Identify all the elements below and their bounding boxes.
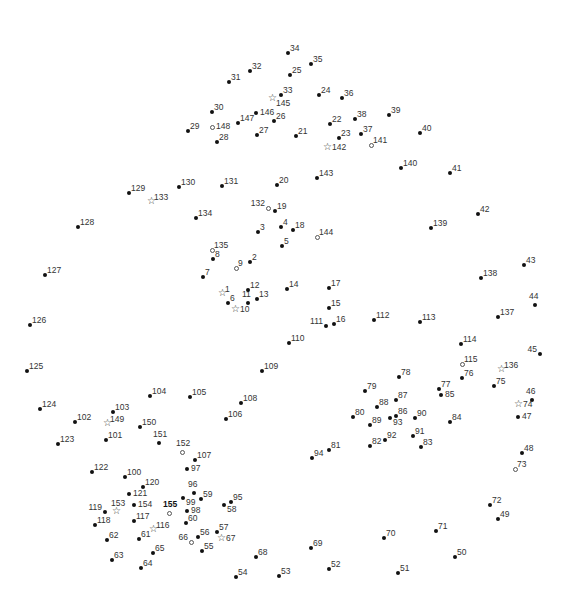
point-number-label: 151 [153,430,167,439]
point-number-label: 77 [441,380,450,389]
point-number-label: 32 [252,62,261,71]
point-number-label: 144 [319,228,333,237]
point-number-label: 46 [526,387,535,396]
point-number-label: 59 [203,490,212,499]
point-number-label: 123 [60,435,74,444]
point-number-label: 43 [526,256,535,265]
point-number-label: 44 [529,292,538,301]
point-number-label: 98 [191,506,200,515]
point-number-label: 33 [283,86,292,95]
point-number-label: 75 [496,377,505,386]
point-number-label: 140 [403,159,417,168]
point-number-label: 145 [276,99,290,108]
point-number-label: 53 [281,567,290,576]
point-number-label: 22 [332,115,341,124]
point-number-label: 87 [398,391,407,400]
point-number-label: 31 [231,73,240,82]
point-number-label: 25 [292,66,301,75]
point-number-label: 21 [298,127,307,136]
point-number-label: 97 [191,464,200,473]
point-number-label: 51 [400,564,409,573]
open-circle-marker-icon [189,540,194,545]
dot-marker-icon [388,416,392,420]
point-number-label: 104 [152,387,166,396]
point-number-label: 29 [190,122,199,131]
point-number-label: 60 [188,514,197,523]
point-number-label: 81 [331,441,340,450]
point-number-label: 57 [219,523,228,532]
point-number-label: 58 [227,505,236,514]
point-number-label: 112 [376,311,390,320]
point-number-label: 150 [142,418,156,427]
point-number-label: 147 [240,114,254,123]
point-number-label: 127 [47,266,61,275]
point-number-label: 24 [321,86,330,95]
point-number-label: 38 [357,110,366,119]
point-number-label: 13 [259,290,268,299]
point-number-label: 8 [215,250,220,259]
point-number-label: 105 [192,388,206,397]
point-number-label: 93 [393,418,402,427]
point-number-label: 92 [387,431,396,440]
point-number-label: 66 [179,533,188,542]
dot-marker-icon [181,496,185,500]
dot-marker-icon [132,503,136,507]
point-number-label: 122 [94,463,108,472]
point-number-label: 121 [133,489,147,498]
dot-marker-icon [324,324,328,328]
dot-to-dot-puzzle: ☆123456789☆10111213141516171819202122232… [0,0,568,609]
point-number-label: 82 [372,437,381,446]
point-number-label: 65 [155,544,164,553]
point-number-label: 80 [355,408,364,417]
open-circle-marker-icon [210,125,215,130]
point-number-label: 74 [523,400,532,409]
point-number-label: 94 [314,449,323,458]
point-number-label: 45 [528,345,537,354]
point-number-label: 155 [163,500,177,509]
point-number-label: 108 [243,394,257,403]
point-number-label: 107 [197,451,211,460]
point-number-label: 133 [154,193,168,202]
point-number-label: 116 [156,521,170,530]
point-number-label: 153 [111,499,125,508]
point-number-label: 76 [464,369,473,378]
point-number-label: 72 [492,496,501,505]
point-number-label: 132 [251,199,265,208]
dot-marker-icon [246,301,250,305]
point-number-label: 79 [367,382,376,391]
open-circle-marker-icon [167,511,172,516]
point-number-label: 102 [77,413,91,422]
point-number-label: 113 [422,313,436,322]
point-number-label: 119 [88,503,102,512]
point-number-label: 154 [138,500,152,509]
dot-marker-icon [157,441,161,445]
point-number-label: 84 [452,413,461,422]
point-number-label: 49 [500,510,509,519]
point-number-label: 152 [176,439,190,448]
point-number-label: 135 [214,241,228,250]
point-number-label: 70 [386,529,395,538]
point-number-label: 34 [290,44,299,53]
dot-marker-icon [127,492,131,496]
point-number-label: 101 [108,431,122,440]
point-number-label: 17 [331,279,340,288]
point-number-label: 41 [452,164,461,173]
point-number-label: 62 [109,531,118,540]
point-number-label: 69 [313,539,322,548]
point-number-label: 95 [233,493,242,502]
point-number-label: 16 [336,315,345,324]
point-number-label: 68 [258,548,267,557]
point-number-label: 15 [331,299,340,308]
open-circle-marker-icon [180,450,185,455]
point-number-label: 143 [319,169,333,178]
star-marker-icon: ☆ [514,399,523,409]
dot-marker-icon [185,509,189,513]
point-number-label: 14 [289,280,298,289]
dot-marker-icon [192,491,196,495]
point-number-label: 19 [277,202,286,211]
point-number-label: 141 [373,136,387,145]
point-number-label: 130 [181,178,195,187]
point-number-label: 6 [230,294,235,303]
open-circle-marker-icon [266,206,271,211]
point-number-label: 96 [188,480,197,489]
